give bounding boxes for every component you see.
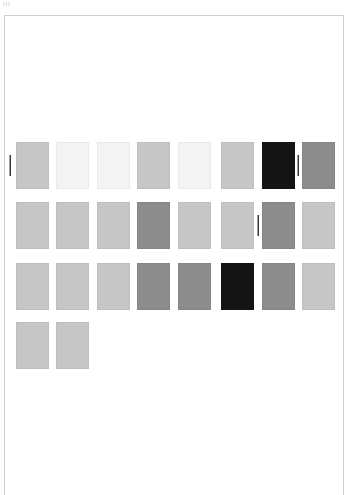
cursor-caret-icon [297,155,299,176]
color-swatch[interactable] [178,202,211,249]
color-swatch[interactable] [137,142,170,189]
color-swatch[interactable] [137,202,170,249]
color-swatch[interactable] [56,322,89,369]
color-swatch[interactable] [97,263,130,310]
color-swatch[interactable] [262,263,295,310]
color-swatch[interactable] [302,202,335,249]
color-swatch[interactable] [56,263,89,310]
cursor-caret-icon [257,215,259,236]
color-swatch[interactable] [262,142,295,189]
color-swatch[interactable] [178,263,211,310]
color-swatch[interactable] [178,142,211,189]
color-swatch[interactable] [302,142,335,189]
color-swatch[interactable] [262,202,295,249]
color-swatch[interactable] [97,142,130,189]
cursor-caret-icon [9,155,11,176]
color-swatch[interactable] [16,202,49,249]
color-swatch[interactable] [221,142,254,189]
color-swatch[interactable] [56,142,89,189]
color-swatch[interactable] [56,202,89,249]
color-swatch[interactable] [137,263,170,310]
color-swatch[interactable] [16,142,49,189]
color-swatch[interactable] [97,202,130,249]
color-swatch[interactable] [16,263,49,310]
color-swatch[interactable] [302,263,335,310]
color-swatch[interactable] [16,322,49,369]
color-swatch[interactable] [221,202,254,249]
color-swatch[interactable] [221,263,254,310]
